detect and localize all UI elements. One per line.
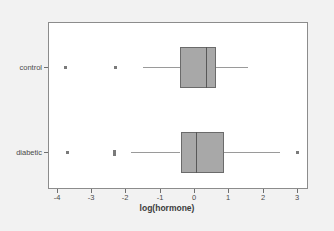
x-tick-label: 3 (287, 193, 307, 202)
x-tick-label: -4 (47, 193, 67, 202)
x-tick-label: 1 (218, 193, 238, 202)
x-tick-label: -3 (81, 193, 101, 202)
boxplot-figure: -4 -3 -2 -1 0 1 2 3 control diabetic (0, 0, 334, 231)
x-axis-label: log(hormone) (0, 203, 334, 213)
x-tick-mark (263, 189, 264, 193)
x-tick-mark (228, 189, 229, 193)
x-tick-mark (57, 189, 58, 193)
x-tick-mark (125, 189, 126, 193)
x-tick-label: 2 (253, 193, 273, 202)
x-tick-label: 0 (184, 193, 204, 202)
y-tick-label-control: control (19, 63, 42, 72)
x-tick-mark (160, 189, 161, 193)
x-tick-mark (91, 189, 92, 193)
plot-area (48, 22, 308, 189)
y-tick-label-diabetic: diabetic (16, 148, 42, 157)
x-tick-label: -2 (115, 193, 135, 202)
x-tick-label: -1 (150, 193, 170, 202)
x-tick-mark (194, 189, 195, 193)
x-tick-mark (297, 189, 298, 193)
